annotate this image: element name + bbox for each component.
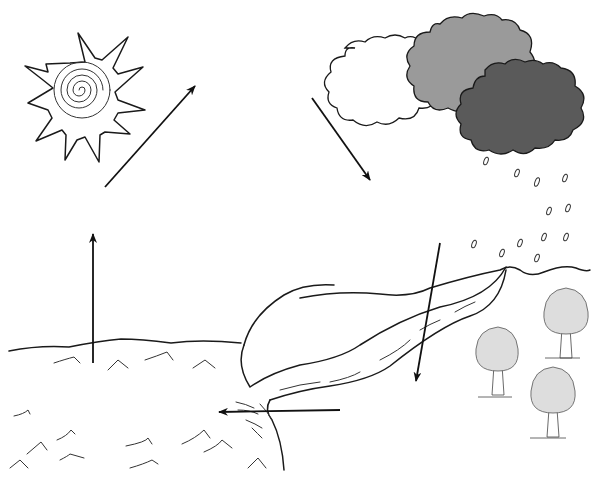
river-icon [236,267,506,470]
tree-icon [544,288,588,358]
water-cycle-diagram [0,0,601,485]
sea-icon [9,339,266,468]
rain-icon [471,157,571,263]
hills-icon [244,267,590,345]
sun-icon [25,33,145,162]
arrow-infiltration-icon [416,243,440,381]
tree-icon [530,367,575,438]
arrow-sun-icon [105,86,195,187]
arrow-runoff-icon [219,410,340,412]
tree-icon [476,327,518,397]
